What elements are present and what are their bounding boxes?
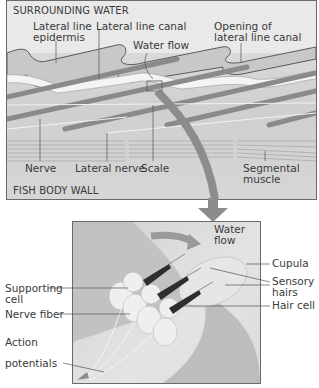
action-potentials-label-2: potentials (5, 358, 57, 370)
lateral-line-canal-label: Lateral line canal (96, 21, 186, 33)
nerve-label: Nerve (25, 163, 56, 175)
segmental-muscle-label-2: muscle (243, 174, 281, 186)
water-flow-label-2: flow (214, 235, 236, 247)
action-potentials-label-1: Action (5, 337, 38, 349)
water-flow-label: Water flow (133, 40, 189, 52)
surrounding-water-label: SURROUNDING WATER (13, 5, 129, 17)
hair-cell-label: Hair cell (272, 300, 315, 312)
supporting-cell-label-2: cell (5, 294, 23, 306)
lateral-line-section-panel: SURROUNDING WATER Lateral line epidermis… (6, 0, 317, 200)
lateral-line-epidermis-label-2: epidermis (33, 32, 85, 44)
nerve-fiber-label: Nerve fiber (5, 309, 64, 321)
neuromast-detail-panel: Water flow (72, 221, 261, 384)
sensory-hairs-label-2: hairs (272, 287, 298, 299)
scale-label: Scale (141, 163, 169, 175)
cupula-label: Cupula (272, 258, 309, 270)
lateral-nerve-label: Lateral nerve (75, 163, 145, 175)
fish-body-wall-label: FISH BODY WALL (13, 185, 98, 197)
opening-of-lateral-line-canal-label-2: lateral line canal (214, 32, 301, 44)
